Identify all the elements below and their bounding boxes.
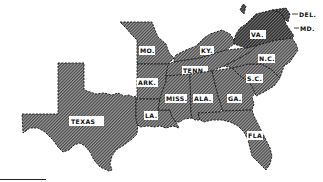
label-louisiana: LA.	[145, 112, 157, 119]
callout-maryland: MD.	[294, 25, 315, 32]
label-delaware: DEL.	[299, 11, 316, 18]
label-mississippi: MISS.	[166, 95, 187, 102]
label-alabama: ALA.	[194, 95, 212, 102]
southern-states-map: TEXAS MO. ARK. LA. KY. TENN. MISS.	[0, 0, 323, 182]
state-missouri[interactable]: MO.	[120, 22, 174, 64]
label-arkansas: ARK.	[138, 79, 156, 86]
label-maryland: MD.	[300, 25, 315, 32]
label-florida: FLA.	[248, 132, 265, 139]
caption-rule	[0, 179, 46, 180]
state-texas[interactable]: TEXAS	[22, 63, 138, 171]
label-south-carolina: S.C.	[247, 75, 262, 82]
label-north-carolina: N.C.	[259, 55, 275, 62]
label-georgia: GA.	[228, 95, 242, 102]
label-kentucky: KY.	[201, 47, 213, 54]
label-missouri: MO.	[140, 47, 155, 54]
label-virginia: VA.	[251, 31, 264, 38]
callout-delaware: DEL.	[292, 11, 316, 18]
state-florida[interactable]: FLA.	[198, 110, 272, 170]
label-texas: TEXAS	[71, 118, 95, 125]
